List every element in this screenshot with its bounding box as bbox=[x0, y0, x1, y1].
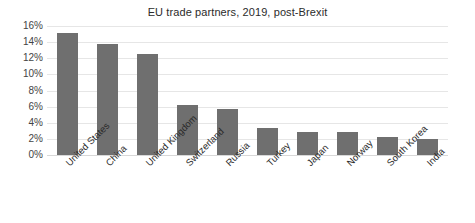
y-axis-tick-label: 4% bbox=[9, 118, 43, 128]
bar-chart: EU trade partners, 2019, post-Brexit 0%2… bbox=[0, 0, 475, 223]
y-axis-tick-labels: 0%2%4%6%8%10%12%14%16% bbox=[5, 26, 43, 155]
x-axis-tick-labels: United StatesChinaUnited KingdomSwitzerl… bbox=[47, 159, 475, 223]
bar bbox=[137, 54, 158, 155]
y-axis-tick-label: 12% bbox=[9, 53, 43, 63]
chart-title: EU trade partners, 2019, post-Brexit bbox=[0, 6, 475, 18]
y-axis-tick-label: 10% bbox=[9, 69, 43, 79]
y-axis-tick-label: 6% bbox=[9, 102, 43, 112]
plot-area bbox=[47, 26, 448, 155]
gridline bbox=[47, 26, 448, 27]
y-axis-tick-label: 2% bbox=[9, 134, 43, 144]
y-axis-tick-label: 8% bbox=[9, 86, 43, 96]
y-axis-tick-label: 14% bbox=[9, 37, 43, 47]
y-axis-tick-label: 16% bbox=[9, 21, 43, 31]
bar bbox=[57, 33, 78, 155]
y-axis-tick-label: 0% bbox=[9, 150, 43, 160]
